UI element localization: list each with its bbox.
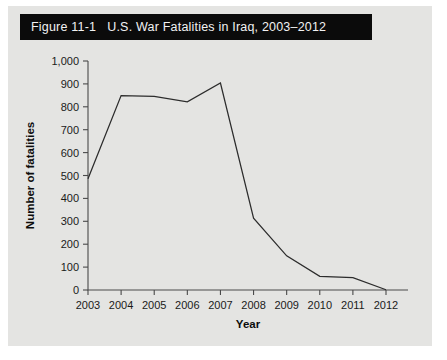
- x-axis-tick-label: 2012: [374, 299, 398, 311]
- y-axis-tick-label: 700: [61, 124, 79, 136]
- x-axis-tick-label: 2006: [175, 299, 199, 311]
- figure-card: Figure 11-1 U.S. War Fatalities in Iraq,…: [8, 6, 432, 346]
- y-axis-tick-label: 300: [61, 215, 79, 227]
- y-axis-tick-group: 01002003004005006007008009001,000: [51, 55, 88, 296]
- y-axis-tick-label: 600: [61, 147, 79, 159]
- x-axis-title: Year: [236, 318, 261, 330]
- x-axis-tick-label: 2010: [308, 299, 332, 311]
- y-axis-tick-label: 0: [73, 284, 79, 296]
- figure-title-bar: Figure 11-1 U.S. War Fatalities in Iraq,…: [20, 14, 372, 40]
- x-axis-tick-label: 2008: [241, 299, 265, 311]
- fatalities-line-chart: 01002003004005006007008009001,000 200320…: [8, 40, 432, 346]
- x-axis-tick-label: 2003: [76, 299, 100, 311]
- y-axis-tick-label: 100: [61, 261, 79, 273]
- x-axis-tick-label: 2005: [142, 299, 166, 311]
- y-axis-tick-label: 200: [61, 238, 79, 250]
- x-axis-tick-label: 2004: [109, 299, 133, 311]
- y-axis-tick-label: 900: [61, 78, 79, 90]
- figure-title: Figure 11-1 U.S. War Fatalities in Iraq,…: [20, 20, 326, 34]
- x-axis-tick-group: 2003200420052006200720082009201020112012: [76, 290, 398, 311]
- chart-plot-region: 01002003004005006007008009001,000 200320…: [8, 40, 432, 346]
- x-axis-tick-label: 2011: [341, 299, 365, 311]
- x-axis-tick-label: 2009: [274, 299, 298, 311]
- x-axis-tick-label: 2007: [208, 299, 232, 311]
- y-axis-tick-label: 500: [61, 170, 79, 182]
- y-axis-tick-label: 800: [61, 101, 79, 113]
- y-axis-tick-label: 400: [61, 192, 79, 204]
- fatalities-data-line: [88, 83, 386, 290]
- y-axis-title: Number of fatalities: [24, 122, 36, 229]
- y-axis-tick-label: 1,000: [51, 55, 79, 67]
